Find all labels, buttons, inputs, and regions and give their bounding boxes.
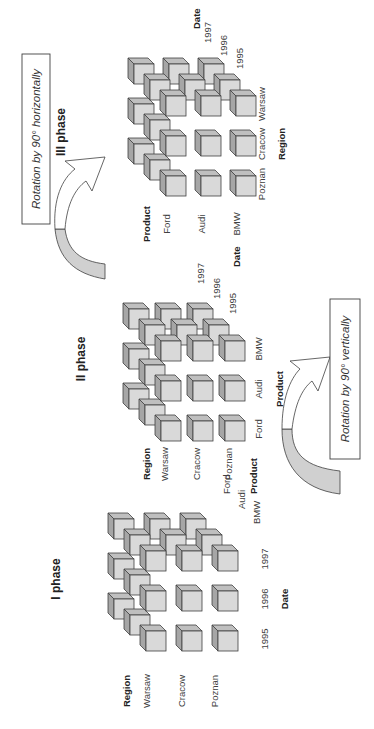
phase-3-depth-1: 1996 xyxy=(218,35,229,56)
rotation-arrow-horizontal: Rotation by 90° horizontally xyxy=(0,54,105,279)
phase-2-depth-axis: Date xyxy=(231,246,242,267)
phase-2-col-2: BMW xyxy=(253,337,264,360)
phase-1-col-0: 1995 xyxy=(259,628,270,649)
cube xyxy=(140,545,166,571)
cube xyxy=(140,625,166,651)
cube xyxy=(155,375,181,401)
phase-1-cube-grid xyxy=(108,513,238,651)
phase-3-row-2: BMW xyxy=(231,212,242,235)
phase-1-title: I phase xyxy=(49,558,63,600)
phase-3-depth-2: 1997 xyxy=(202,22,213,43)
cube xyxy=(219,335,245,361)
phase-3-row-0: Ford xyxy=(161,214,172,234)
phase-2-depth-2: 1997 xyxy=(195,263,206,284)
cube xyxy=(187,335,213,361)
phase-2-depth-0: 1995 xyxy=(227,293,238,314)
cube xyxy=(155,335,181,361)
cube xyxy=(195,90,221,116)
phase-1: I phase Region Warsaw Cracow Poznan 1995… xyxy=(49,457,290,708)
phase-1-depth-axis: Product xyxy=(248,457,259,494)
cube xyxy=(176,545,202,571)
phase-2-col-axis: Product xyxy=(274,370,285,407)
phase-1-row-1: Cracow xyxy=(176,675,187,707)
cube xyxy=(195,170,221,196)
cube xyxy=(176,625,202,651)
phase-1-col-1: 1996 xyxy=(259,588,270,609)
phase-1-depth-0: BMW xyxy=(251,501,262,524)
phase-2: II phase Region Warsaw Cracow Poznan For… xyxy=(74,246,285,481)
phase-2-col-1: Audi xyxy=(253,379,264,398)
cube xyxy=(212,585,238,611)
phase-1-row-0: Warsaw xyxy=(141,674,152,708)
phase-3-row-1: Audi xyxy=(196,214,207,233)
cube xyxy=(195,130,221,156)
phase-3: III phase Product Ford Audi BMW Poznan C… xyxy=(54,8,287,242)
phase-2-row-0: Warsaw xyxy=(159,447,170,481)
phase-2-depth-1: 1996 xyxy=(211,278,222,299)
phase-2-row-axis: Region xyxy=(141,448,152,480)
phase-1-row-axis: Region xyxy=(121,675,132,707)
cube xyxy=(176,585,202,611)
caption-horizontal: Rotation by 90° horizontally xyxy=(30,68,42,209)
cube xyxy=(140,585,166,611)
phase-3-depth-axis: Date xyxy=(191,8,202,29)
cube xyxy=(160,130,186,156)
phase-3-col-0: Poznan xyxy=(256,168,267,200)
cube xyxy=(160,170,186,196)
phase-3-depth-0: 1995 xyxy=(234,48,245,69)
rotation-arrow-vertical: Rotation by 90° vertically xyxy=(282,299,360,494)
phase-1-col-axis: Date xyxy=(279,589,290,610)
cube xyxy=(230,90,256,116)
phase-2-cube-grid xyxy=(123,303,245,441)
phase-2-row-2: Poznan xyxy=(223,448,234,480)
cube xyxy=(187,415,213,441)
phase-3-title: III phase xyxy=(54,108,68,156)
cube xyxy=(212,545,238,571)
phase-2-title: II phase xyxy=(74,336,88,381)
phase-3-cube-grid xyxy=(128,58,256,196)
phase-3-row-axis: Product xyxy=(141,205,152,242)
phase-3-col-1: Cracow xyxy=(256,128,267,160)
cube xyxy=(219,415,245,441)
caption-vertical: Rotation by 90° vertically xyxy=(339,314,351,442)
phase-2-row-1: Cracow xyxy=(191,448,202,480)
cube xyxy=(160,90,186,116)
olap-rotation-diagram: I phase Region Warsaw Cracow Poznan 1995… xyxy=(0,0,374,729)
diagram-stage: I phase Region Warsaw Cracow Poznan 1995… xyxy=(0,0,374,729)
phase-1-depth-1: Audi xyxy=(236,490,247,509)
cube xyxy=(230,170,256,196)
cube xyxy=(155,415,181,441)
phase-3-col-axis: Region xyxy=(276,128,287,160)
cube xyxy=(187,375,213,401)
cube xyxy=(219,375,245,401)
cube xyxy=(212,625,238,651)
cube xyxy=(230,130,256,156)
phase-1-col-2: 1997 xyxy=(259,548,270,569)
phase-1-row-2: Poznan xyxy=(209,675,220,707)
phase-2-col-0: Ford xyxy=(253,419,264,439)
phase-3-col-2: Warsaw xyxy=(256,87,267,121)
